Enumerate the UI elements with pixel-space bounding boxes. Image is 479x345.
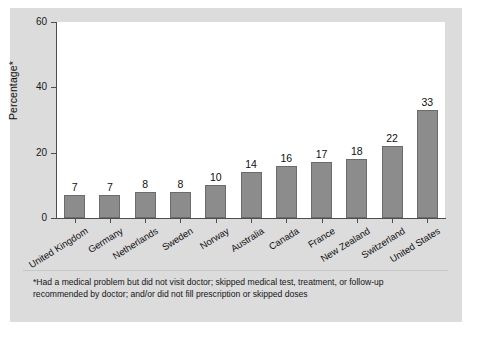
- bar: 14: [241, 172, 262, 218]
- bar: 33: [417, 110, 438, 218]
- y-tick-mark: [51, 218, 56, 219]
- y-tick-label: 0: [41, 211, 47, 224]
- x-axis-label-text: Norway: [197, 225, 230, 251]
- bar-value-label: 22: [386, 132, 398, 144]
- x-tick: [357, 219, 358, 223]
- y-tick-label: 20: [36, 146, 47, 159]
- bar: 7: [64, 195, 85, 218]
- y-tick-60: 60: [51, 22, 56, 23]
- y-axis-title: Percentage*: [7, 61, 19, 120]
- y-tick-mark: [51, 87, 56, 88]
- x-tick: [392, 219, 393, 223]
- bar-value-label: 10: [210, 171, 222, 183]
- x-axis-label-text: Sweden: [160, 225, 195, 253]
- bar-value-label: 14: [245, 158, 257, 170]
- plot-area: 778810141617182233: [57, 22, 445, 218]
- bottom-caption: [12, 333, 312, 343]
- bar-value-label: 17: [316, 148, 328, 160]
- bar: 8: [135, 192, 156, 218]
- x-tick: [110, 219, 111, 223]
- x-tick: [286, 219, 287, 223]
- y-tick-mark: [51, 22, 56, 23]
- y-tick-label: 40: [36, 80, 47, 93]
- x-tick: [180, 219, 181, 223]
- bar: 18: [346, 159, 367, 218]
- x-axis-label-text: Australia: [229, 225, 266, 254]
- x-axis-label-text: Canada: [267, 225, 301, 252]
- bar-value-label: 8: [142, 178, 148, 190]
- x-tick: [427, 219, 428, 223]
- bar: 22: [382, 146, 403, 218]
- bar-value-label: 18: [351, 145, 363, 157]
- y-tick-mark: [51, 153, 56, 154]
- y-tick-label: 60: [36, 15, 47, 28]
- bar-value-label: 8: [178, 178, 184, 190]
- bar: 16: [276, 166, 297, 218]
- y-tick-0: 0: [51, 218, 56, 219]
- bar: 10: [205, 185, 226, 218]
- x-tick: [216, 219, 217, 223]
- y-tick-40: 40: [51, 87, 56, 88]
- bar-value-label: 7: [107, 181, 113, 193]
- bar-value-label: 33: [422, 96, 434, 108]
- x-tick: [75, 219, 76, 223]
- bar-value-label: 16: [280, 152, 292, 164]
- figure-panel: Percentage* 0204060 778810141617182233 U…: [10, 8, 462, 322]
- x-axis-label-text: United Kingdom: [26, 225, 89, 270]
- bar: 8: [170, 192, 191, 218]
- bar-value-label: 7: [72, 181, 78, 193]
- x-tick: [251, 219, 252, 223]
- bar: 7: [99, 195, 120, 218]
- x-tick: [145, 219, 146, 223]
- footnote-divider: [23, 270, 448, 271]
- bar: 17: [311, 162, 332, 218]
- x-tick: [322, 219, 323, 223]
- y-tick-20: 20: [51, 153, 56, 154]
- footnote: *Had a medical problem but did not visit…: [33, 277, 437, 300]
